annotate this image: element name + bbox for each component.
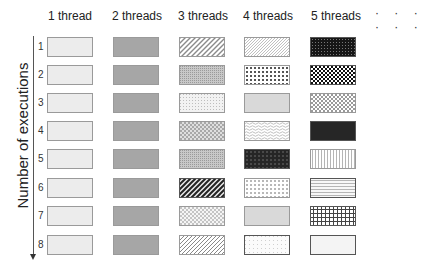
- execution-cell-grid: [310, 206, 356, 226]
- execution-cell-diagonal-light: [179, 37, 225, 57]
- row-label: 5: [38, 153, 44, 164]
- execution-cell-medium-gray: [113, 121, 159, 141]
- execution-cell-light-gray: [47, 206, 93, 226]
- execution-cell-medium-gray: [113, 206, 159, 226]
- execution-cell-very-light: [310, 235, 356, 255]
- execution-cell-fine-dots-gray: [179, 149, 225, 169]
- execution-cell-dark-dotted: [244, 149, 290, 169]
- column-header-2-threads: 2 threads: [112, 9, 162, 23]
- row-label: 8: [38, 239, 44, 250]
- execution-cell-checker-black: [310, 65, 356, 85]
- execution-cell-medium-gray: [113, 65, 159, 85]
- row-label: 1: [38, 41, 44, 52]
- row-label: 6: [38, 182, 44, 193]
- execution-cell-light-gray: [47, 149, 93, 169]
- execution-cell-medium-gray: [113, 235, 159, 255]
- execution-cell-light-gray-solid: [244, 93, 290, 113]
- execution-cell-checker-light: [310, 93, 356, 113]
- execution-cell-diagonal-dark: [179, 178, 225, 198]
- column-header-5-threads: 5 threads: [311, 9, 361, 23]
- execution-cell-diagonal-dense-light: [244, 37, 290, 57]
- row-label: 3: [38, 97, 44, 108]
- row-label: 2: [38, 69, 44, 80]
- execution-cell-dark-solid: [310, 121, 356, 141]
- row-label: 7: [38, 210, 44, 221]
- execution-cell-light-gray-solid: [244, 206, 290, 226]
- execution-cell-medium-gray: [113, 93, 159, 113]
- execution-cell-wavy-horizontal: [244, 121, 290, 141]
- execution-cell-large-checker: [244, 65, 290, 85]
- execution-cell-light-gray: [47, 65, 93, 85]
- execution-cell-sparse-dots-white: [244, 235, 290, 255]
- execution-cell-sparse-dots: [179, 93, 225, 113]
- column-header-1-thread: 1 thread: [48, 9, 92, 23]
- execution-cell-light-gray: [47, 178, 93, 198]
- execution-cell-diagonal-medium: [179, 235, 225, 255]
- execution-cell-dotted-black: [310, 37, 356, 57]
- execution-cell-small-checker: [179, 121, 225, 141]
- execution-cell-light-gray: [47, 121, 93, 141]
- execution-cell-horizontal-lines: [310, 178, 356, 198]
- execution-cell-medium-gray: [113, 149, 159, 169]
- column-header-4-threads: 4 threads: [243, 9, 293, 23]
- more-threads-ellipsis: · · · · · ·: [375, 6, 438, 34]
- execution-cell-light-gray: [47, 93, 93, 113]
- execution-cell-medium-gray: [113, 37, 159, 57]
- execution-cell-fine-dots-gray: [179, 65, 225, 85]
- row-label: 4: [38, 125, 44, 136]
- execution-cell-medium-gray: [113, 178, 159, 198]
- executions-axis-line: [33, 36, 34, 256]
- execution-cell-light-gray: [47, 235, 93, 255]
- execution-cell-dotted-grid: [244, 178, 290, 198]
- execution-cell-small-checker-light: [179, 206, 225, 226]
- execution-cell-light-gray: [47, 37, 93, 57]
- column-header-3-threads: 3 threads: [178, 9, 228, 23]
- execution-cell-vertical-lines: [310, 149, 356, 169]
- axis-arrow-down-icon: [30, 254, 36, 260]
- axis-label: Number of executions: [14, 89, 31, 209]
